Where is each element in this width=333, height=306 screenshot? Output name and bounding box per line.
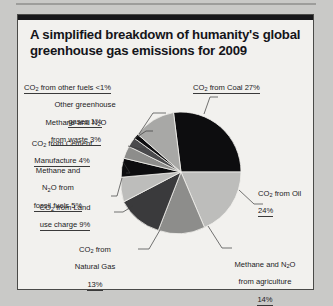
callout-fossil-fuels-prefix: N <box>42 183 47 192</box>
callout-other-greenhouse-line-2: gases 1% <box>36 118 134 128</box>
callout-coal-prefix: CO <box>193 83 204 92</box>
leader-line-agriculture <box>208 226 232 248</box>
callout-natural-gas-prefix: CO <box>79 245 90 254</box>
callout-label-other-fuels: CO2 from other fuels <1% <box>24 75 174 94</box>
callout-natural-gas-text: from <box>94 245 111 254</box>
callout-natural-gas-line-2: Natural Gas <box>56 263 134 272</box>
leader-line-natural-gas <box>138 230 160 249</box>
pie-slice-coal <box>174 112 242 172</box>
callout-fossil-fuels-line-3: fossil fuels 5% <box>18 202 98 212</box>
callout-natural-gas-subscript: 2 <box>90 248 93 254</box>
callout-waste-line-2: from waste 3% <box>28 136 124 146</box>
callout-other-fuels-subscript: 2 <box>35 86 38 92</box>
callout-coal-text: from Coal 27% <box>208 83 260 92</box>
callout-agriculture-value: 14% <box>257 296 272 306</box>
callout-oil-value: 24% <box>258 207 273 217</box>
callout-natural-gas-value: 13% <box>87 281 102 291</box>
callout-fossil-fuels-value: fossil fuels 5% <box>34 202 83 212</box>
callout-coal-subscript: 2 <box>204 86 207 92</box>
callout-oil-prefix: CO <box>258 189 269 198</box>
callout-waste-value: from waste 3% <box>51 136 101 146</box>
callout-fossil-fuels-subscript: 2 <box>48 187 51 193</box>
callout-other-greenhouse-value: gases 1% <box>68 118 101 128</box>
callout-label-agriculture: Methane and N2O from agriculture 14% <box>214 252 316 306</box>
top-rule-divider <box>16 3 316 5</box>
callout-natural-gas-line-3: 13% <box>56 281 134 291</box>
callout-label-natural-gas: CO2 from Natural Gas 13% <box>56 237 134 300</box>
callout-agriculture-line-1: Methane and N2O <box>214 261 316 270</box>
callout-agriculture-line-2: from agriculture <box>214 278 316 287</box>
callout-land-use-line-2: use charge 9% <box>22 221 108 231</box>
callout-cement-line-2: Manufacture 4% <box>16 157 108 167</box>
callout-natural-gas-line-1: CO2 from <box>56 246 134 255</box>
callout-agriculture-line-3: 14% <box>214 296 316 306</box>
callout-label-other-greenhouse-gases: Other greenhouse gases 1% <box>36 92 134 137</box>
callout-oil-text: from Oil <box>273 189 302 198</box>
callout-oil-subscript: 2 <box>269 192 272 198</box>
callout-other-fuels-text: from other fuels <1% <box>39 83 111 92</box>
leader-line-coal <box>204 97 218 114</box>
callout-agriculture-text: O <box>290 260 296 269</box>
callout-fossil-fuels-line-2: N2O from <box>18 184 98 193</box>
callout-other-greenhouse-line-1: Other greenhouse <box>36 101 134 110</box>
callout-cement-value: Manufacture 4% <box>34 157 89 167</box>
callout-agriculture-prefix: Methane and N <box>235 260 287 269</box>
callout-fossil-fuels-text: O from <box>51 183 74 192</box>
callout-oil-line-2: 24% <box>258 207 330 217</box>
callout-label-coal: CO2 from Coal 27% <box>193 75 313 94</box>
pie-slices <box>121 112 241 234</box>
leader-line-fossil-fuels <box>111 178 122 196</box>
figure-page: A simplified breakdown of humanity's glo… <box>0 0 333 306</box>
callout-agriculture-subscript: 2 <box>286 263 289 269</box>
callout-label-oil: CO2 from Oil 24% <box>258 181 330 226</box>
callout-other-fuels-prefix: CO <box>24 83 35 92</box>
callout-land-use-value: use charge 9% <box>40 221 91 231</box>
callout-oil-line-1: CO2 from Oil <box>258 190 330 199</box>
